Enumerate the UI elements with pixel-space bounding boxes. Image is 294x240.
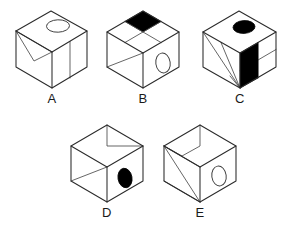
option-b[interactable]: B <box>103 8 183 90</box>
cube-a-top-ellipse <box>46 19 69 32</box>
cube-c-drawing <box>199 8 281 90</box>
option-e[interactable]: E <box>160 122 240 204</box>
cube-options-figure: A B <box>0 0 294 240</box>
cube-b-drawing <box>103 8 183 90</box>
option-c[interactable]: C <box>199 8 281 90</box>
cube-a-drawing <box>13 8 91 90</box>
option-a[interactable]: A <box>13 8 91 90</box>
option-d[interactable]: D <box>67 122 147 204</box>
cube-d-drawing <box>67 122 147 204</box>
option-d-label: D <box>67 206 147 220</box>
option-e-label: E <box>160 206 240 220</box>
option-c-label: C <box>199 92 281 106</box>
option-b-label: B <box>103 92 183 106</box>
option-a-label: A <box>13 92 91 106</box>
cube-e-drawing <box>160 122 240 204</box>
